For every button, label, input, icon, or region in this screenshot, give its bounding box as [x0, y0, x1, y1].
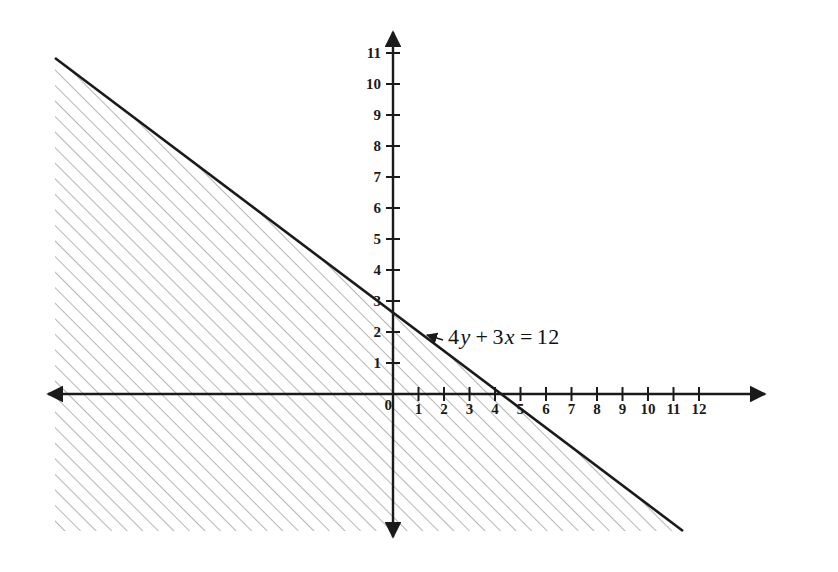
x-tick-label-11: 11 — [666, 402, 680, 417]
x-tick-label-7: 7 — [568, 402, 576, 417]
equation-coef-x: 3 — [492, 324, 503, 349]
y-tick-label-9: 9 — [374, 108, 382, 123]
coordinate-plane — [0, 0, 838, 572]
y-tick-label-10: 10 — [366, 77, 381, 92]
x-tick-label-3: 3 — [466, 402, 474, 417]
equation-plus-operator: + — [472, 324, 493, 349]
y-tick-label-1: 1 — [374, 356, 382, 371]
x-tick-label-10: 10 — [641, 402, 656, 417]
x-tick-label-4: 4 — [491, 402, 499, 417]
x-tick-label-5: 5 — [517, 402, 525, 417]
solution-region-shading — [50, 50, 690, 535]
x-tick-label-2: 2 — [440, 402, 448, 417]
y-tick-label-2: 2 — [374, 325, 382, 340]
x-tick-label-12: 12 — [692, 402, 707, 417]
y-tick-label-7: 7 — [374, 170, 382, 185]
y-tick-label-6: 6 — [374, 201, 382, 216]
y-tick-label-11: 11 — [367, 46, 381, 61]
equation-coef-y: 4 — [448, 324, 459, 349]
y-tick-label-8: 8 — [374, 139, 382, 154]
equation-rhs: 12 — [537, 324, 560, 349]
origin-label: 0 — [385, 397, 393, 414]
x-tick-label-8: 8 — [593, 402, 601, 417]
x-tick-label-9: 9 — [619, 402, 627, 417]
equation-var-x: x — [504, 324, 516, 349]
x-tick-label-1: 1 — [415, 402, 423, 417]
y-tick-label-3: 3 — [374, 294, 382, 309]
y-tick-label-5: 5 — [374, 232, 382, 247]
y-tick-label-4: 4 — [374, 263, 382, 278]
equation-var-y: y — [459, 324, 471, 349]
graph-figure: 1 2 3 4 5 6 7 8 9 10 11 12 1 2 3 4 5 6 7… — [0, 0, 838, 572]
equation-equals-operator: = — [516, 324, 537, 349]
equation-annotation: 4y+3x=12 — [448, 324, 560, 350]
x-tick-label-6: 6 — [542, 402, 550, 417]
